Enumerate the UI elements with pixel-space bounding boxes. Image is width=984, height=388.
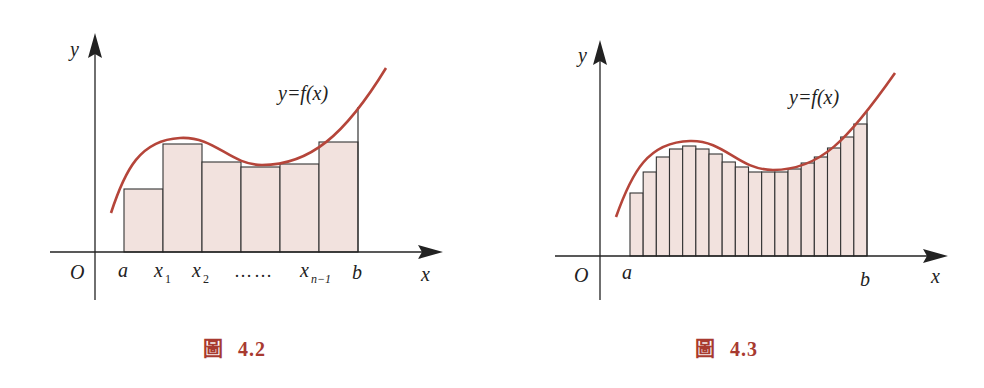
rectangle (801, 163, 814, 256)
tick-label-b: b (352, 261, 362, 283)
rectangle (735, 167, 748, 256)
rectangle (828, 148, 841, 256)
tick-label-x2: x (191, 259, 201, 281)
x-axis-label: x (420, 263, 430, 285)
tick-label-x1-sub: 1 (165, 272, 171, 286)
rectangle (814, 157, 827, 256)
caption-label: 圖 (695, 338, 716, 360)
caption-fig-4-3: 圖4.3 (695, 333, 758, 362)
tick-label-x1: x (153, 259, 163, 281)
rectangles (124, 142, 358, 252)
rectangle (319, 142, 358, 252)
origin-label: O (574, 264, 588, 286)
riemann-sum-diagram-fine: y y=f(x) O a b x (510, 0, 984, 320)
rectangle (241, 167, 280, 252)
y-axis-label: y (576, 44, 587, 67)
rectangle (841, 137, 854, 256)
rectangle (696, 149, 709, 256)
rectangle (630, 193, 643, 256)
rectangle (788, 169, 801, 256)
rectangle (124, 189, 163, 252)
rectangle (762, 172, 775, 256)
figure-4-2: y y=f(x) O a x 1 x 2 …… x n−1 b x (0, 0, 470, 324)
rectangle (670, 149, 683, 256)
origin-label: O (70, 261, 84, 283)
caption-label: 圖 (203, 338, 224, 360)
rectangle (722, 162, 735, 256)
curve-label: y=f(x) (787, 86, 839, 109)
rectangle (656, 157, 669, 256)
tick-label-ellipsis: …… (234, 261, 274, 281)
tick-label-xn-1-sub: n−1 (311, 272, 331, 286)
caption-fig-4-2: 圖4.2 (203, 333, 266, 362)
tick-label-b: b (860, 268, 870, 290)
caption-number: 4.2 (238, 338, 266, 360)
rectangle (643, 172, 656, 256)
rectangle (683, 146, 696, 256)
tick-label-xn-1: x (299, 259, 309, 281)
rectangle (202, 162, 241, 252)
rectangle (709, 154, 722, 256)
rectangle (280, 164, 319, 252)
figure-4-3: y y=f(x) O a b x (510, 0, 984, 324)
rectangle (854, 124, 867, 256)
tick-label-a: a (118, 259, 128, 281)
tick-label-x2-sub: 2 (203, 272, 209, 286)
riemann-sum-diagram-coarse: y y=f(x) O a x 1 x 2 …… x n−1 b x (0, 0, 470, 320)
y-axis-label: y (68, 38, 79, 61)
tick-label-a: a (622, 261, 632, 283)
rectangle (749, 172, 762, 256)
rectangles (630, 124, 867, 256)
rectangle (163, 144, 202, 252)
caption-number: 4.3 (730, 338, 758, 360)
rectangle (775, 172, 788, 256)
curve-label: y=f(x) (276, 82, 328, 105)
x-axis-label: x (930, 265, 940, 287)
